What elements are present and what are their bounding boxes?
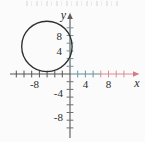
circle-curve: [22, 21, 72, 71]
x-tick-label-4: 4: [83, 78, 89, 90]
y-tick-label-8: 8: [57, 30, 63, 42]
y-axis-label: y: [60, 8, 67, 22]
graph-canvas: -8 4 8 8 4 -4 -8 y x: [0, 0, 145, 142]
figure-coordinate-plane-circle: -8 4 8 8 4 -4 -8 y x: [0, 0, 145, 142]
x-tick-label-neg8: -8: [30, 78, 40, 90]
y-tick-label-4: 4: [57, 45, 63, 57]
y-axis-arrowhead-icon: [67, 13, 73, 19]
y-tick-label-neg4: -4: [54, 87, 64, 99]
x-tick-label-8: 8: [106, 78, 112, 90]
y-tick-label-neg8: -8: [54, 111, 64, 123]
x-axis-label: x: [133, 76, 140, 90]
